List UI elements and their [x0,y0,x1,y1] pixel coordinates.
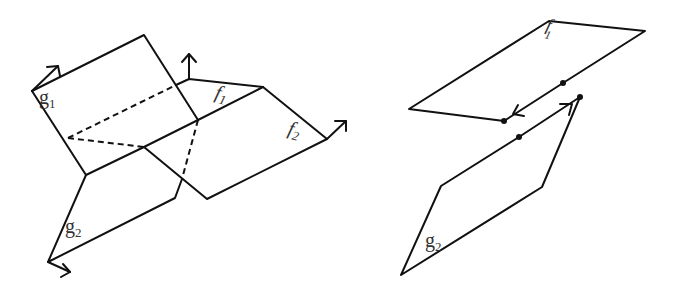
label-g2-right: g2 [425,229,442,254]
right-figure: f1 g2 [401,15,645,275]
face-f2-edge [144,87,327,199]
point-f1-upper [560,80,566,86]
hidden-edge-3 [182,120,198,179]
label-f2: f2 [285,117,304,144]
hidden-edge-1 [68,85,176,138]
label-g1: g1 [39,86,56,111]
diagram-canvas: g1 f1 f2 g2 f1 g2 [0,0,679,295]
left-figure: g1 f1 f2 g2 [32,35,346,277]
point-g2-upper [577,94,583,100]
arrow-icon-f1-normal [182,54,196,79]
label-f1-right: f1 [542,15,557,43]
label-g2: g2 [65,215,82,240]
face-f1-edge-right [409,21,645,121]
arrow-icon-f2-normal [327,121,346,139]
hidden-edge-2 [68,138,144,147]
fold-line-center [86,87,263,175]
label-f1: f1 [212,81,230,108]
face-g1-edge [32,35,198,120]
point-f1-lower [501,118,507,124]
arrow-icon-g2-normal [48,262,70,277]
point-g2-lower [516,134,522,140]
